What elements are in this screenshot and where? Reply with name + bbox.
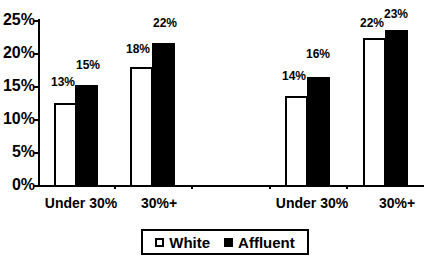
value-label: 15% <box>70 59 106 71</box>
bar-white-under30-2 <box>285 96 308 187</box>
y-tick-label: 20% <box>3 45 35 61</box>
value-label: 23% <box>378 8 414 20</box>
bar-affluent-under30-2 <box>307 77 330 187</box>
y-tick <box>34 152 39 154</box>
y-tick-label: 10% <box>3 111 35 127</box>
value-label: 16% <box>300 48 336 60</box>
bar-affluent-under30-1 <box>75 85 98 187</box>
x-tick <box>346 185 348 189</box>
y-tick <box>34 53 39 55</box>
y-axis-line <box>38 19 40 187</box>
white-swatch-icon <box>155 238 164 247</box>
y-tick <box>34 86 39 88</box>
y-tick-label: 5% <box>12 144 35 160</box>
bar-white-30plus-1 <box>130 67 153 187</box>
x-category-label: Under 30% <box>41 196 121 210</box>
x-tick <box>114 185 116 189</box>
legend-label: Affluent <box>238 234 295 251</box>
legend-item-white: White <box>155 234 210 251</box>
x-tick <box>269 185 271 189</box>
black-swatch-icon <box>224 238 233 247</box>
legend-item-affluent: Affluent <box>224 234 295 251</box>
x-category-label: 30%+ <box>372 196 422 210</box>
y-tick <box>34 185 39 187</box>
y-tick <box>34 119 39 121</box>
x-tick <box>191 185 193 189</box>
y-tick-label: 15% <box>3 78 35 94</box>
value-label: 22% <box>147 17 183 29</box>
bar-white-30plus-2 <box>363 38 386 187</box>
bar-affluent-30plus-2 <box>385 30 408 187</box>
legend: White Affluent <box>141 229 309 255</box>
y-tick-label: 25% <box>3 12 35 28</box>
y-tick <box>34 20 39 22</box>
legend-label: White <box>169 234 210 251</box>
x-category-label: Under 30% <box>272 196 352 210</box>
x-category-label: 30%+ <box>134 196 184 210</box>
value-label: 14% <box>276 70 312 82</box>
value-label: 13% <box>45 76 81 88</box>
value-label: 18% <box>120 43 156 55</box>
bar-white-under30-1 <box>54 103 77 187</box>
bar-affluent-30plus-1 <box>152 43 175 187</box>
y-tick-label: 0% <box>12 177 35 193</box>
